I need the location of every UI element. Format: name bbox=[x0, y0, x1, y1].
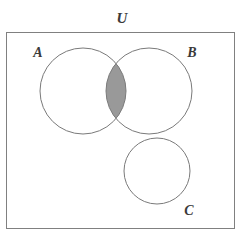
set-a-label: A bbox=[32, 45, 42, 60]
universal-set-label: U bbox=[117, 10, 129, 26]
venn-diagram-container: U A B C bbox=[0, 0, 248, 242]
venn-diagram-svg: U A B C bbox=[0, 0, 248, 242]
set-c-label: C bbox=[184, 203, 194, 218]
set-b-label: B bbox=[186, 45, 196, 60]
